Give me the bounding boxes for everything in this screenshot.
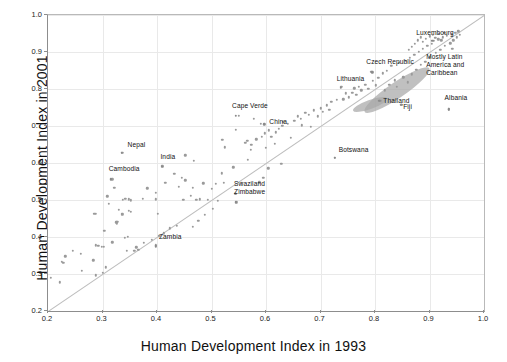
- data-point-labeled: [371, 71, 373, 73]
- data-point: [184, 154, 186, 156]
- data-point: [130, 211, 132, 213]
- x-tick-mark: [320, 310, 321, 313]
- data-point: [377, 77, 379, 79]
- data-point: [202, 182, 204, 184]
- point-annotation-label: Botswana: [339, 146, 369, 154]
- data-point: [381, 72, 383, 74]
- data-point: [246, 140, 248, 142]
- y-tick-label: 0.2: [18, 306, 42, 315]
- data-point: [118, 208, 120, 210]
- gridline-horizontal: [48, 89, 484, 90]
- data-point: [444, 45, 446, 47]
- data-point: [307, 114, 309, 116]
- y-tick-label: 0.7: [18, 121, 42, 130]
- data-point: [250, 148, 252, 150]
- data-point: [408, 49, 410, 51]
- x-tick-label: 0.3: [96, 314, 106, 323]
- data-point: [321, 111, 323, 113]
- data-point: [386, 69, 388, 71]
- data-point: [192, 187, 194, 189]
- x-tick-mark: [265, 310, 266, 313]
- data-point: [275, 131, 277, 133]
- y-tick-mark: [44, 310, 47, 311]
- point-annotation-label: Nepal: [128, 141, 146, 149]
- data-point: [364, 83, 366, 85]
- data-point: [108, 203, 110, 205]
- x-tick-label: 0.6: [260, 314, 270, 323]
- data-point: [289, 137, 291, 139]
- scatter-plot-figure: Human Development Index in 2001 Human De…: [0, 0, 507, 362]
- y-tick-label: 0.6: [18, 158, 42, 167]
- data-point: [456, 36, 458, 38]
- data-point: [235, 128, 237, 130]
- point-annotation-label: Cambodia: [109, 165, 140, 173]
- data-point: [437, 38, 439, 40]
- data-point: [190, 195, 192, 197]
- data-point: [223, 182, 225, 184]
- x-tick-label: 0.9: [423, 314, 433, 323]
- data-point: [300, 117, 302, 119]
- data-point: [164, 181, 166, 183]
- data-point: [62, 262, 64, 264]
- data-point: [413, 54, 415, 56]
- data-point: [71, 250, 73, 252]
- data-point: [440, 39, 442, 41]
- data-point: [451, 48, 453, 50]
- data-point: [348, 96, 350, 98]
- data-point: [173, 173, 175, 175]
- data-point-labeled: [161, 165, 163, 167]
- data-point: [336, 99, 338, 101]
- data-point: [106, 195, 108, 197]
- x-tick-mark: [211, 310, 212, 313]
- data-point: [92, 259, 94, 261]
- data-point: [426, 45, 428, 47]
- data-point: [178, 185, 180, 187]
- x-tick-label: 0.7: [314, 314, 324, 323]
- data-point: [232, 166, 234, 168]
- data-point: [59, 281, 61, 283]
- data-point: [64, 255, 66, 257]
- data-point: [277, 128, 279, 130]
- point-annotation-label: Albania: [445, 94, 468, 102]
- data-point: [247, 159, 249, 161]
- data-point: [328, 109, 330, 111]
- data-point: [422, 48, 424, 50]
- gridline-vertical: [484, 15, 485, 311]
- data-point: [113, 187, 115, 189]
- gridline-horizontal: [48, 274, 484, 275]
- data-point: [238, 115, 240, 117]
- data-point: [255, 138, 257, 140]
- x-tick-mark: [47, 310, 48, 313]
- data-point: [192, 225, 194, 227]
- y-tick-mark: [44, 273, 47, 274]
- y-tick-label: 0.9: [18, 47, 42, 56]
- data-point: [344, 92, 346, 94]
- data-point-labeled: [333, 157, 335, 159]
- y-tick-mark: [44, 162, 47, 163]
- x-tick-mark: [156, 310, 157, 313]
- y-tick-mark: [44, 125, 47, 126]
- data-point: [105, 266, 107, 268]
- data-point: [452, 39, 454, 41]
- point-annotation-label: Swaziland: [234, 180, 265, 188]
- point-annotation-label: Czech Republic: [366, 58, 414, 66]
- y-tick-label: 0.5: [18, 195, 42, 204]
- data-point: [459, 34, 461, 36]
- y-tick-label: 0.8: [18, 84, 42, 93]
- point-annotation-label: Zambia: [159, 233, 182, 241]
- x-tick-mark: [374, 310, 375, 313]
- data-point: [439, 49, 441, 51]
- data-point: [449, 42, 451, 44]
- x-tick-label: 0.4: [151, 314, 161, 323]
- data-point-labeled: [447, 108, 449, 110]
- data-point: [270, 136, 272, 138]
- y-tick-mark: [44, 51, 47, 52]
- data-point: [197, 220, 199, 222]
- y-tick-label: 1.0: [18, 10, 42, 19]
- data-point: [180, 177, 182, 179]
- data-point: [313, 109, 315, 111]
- x-tick-label: 1.0: [478, 314, 488, 323]
- data-point: [420, 63, 422, 65]
- data-point: [184, 179, 186, 181]
- data-point: [317, 115, 319, 117]
